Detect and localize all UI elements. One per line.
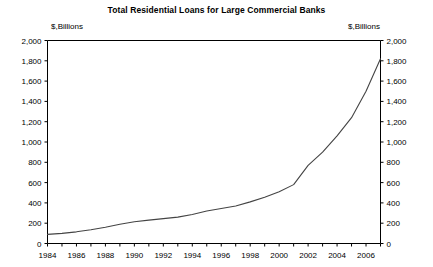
y-tick-label-right: 1,400 — [387, 97, 408, 106]
y-tick-label-left: 2,000 — [21, 37, 42, 46]
y-tick-label-right: 600 — [387, 179, 401, 188]
y-tick-label-right: 1,600 — [387, 77, 408, 86]
y-tick-label-right: 800 — [387, 158, 401, 167]
y-tick-label-left: 1,800 — [21, 57, 42, 66]
x-tick-label: 1984 — [39, 251, 57, 260]
y-tick-label-left: 1,400 — [21, 97, 42, 106]
y-tick-label-right: 1,200 — [387, 118, 408, 127]
y-tick-label-left: 200 — [28, 219, 42, 228]
plot-area: 002002004004006006008008001,0001,0001,20… — [0, 0, 433, 267]
y-tick-label-left: 0 — [37, 240, 42, 249]
y-tick-label-right: 1,800 — [387, 57, 408, 66]
x-tick-label: 1994 — [183, 251, 201, 260]
y-tick-label-right: 2,000 — [387, 37, 408, 46]
y-tick-label-right: 1,000 — [387, 138, 408, 147]
y-tick-label-right: 0 — [387, 240, 392, 249]
x-tick-label: 1986 — [68, 251, 86, 260]
y-tick-label-left: 1,600 — [21, 77, 42, 86]
chart-container: Total Residential Loans for Large Commer… — [0, 0, 433, 267]
data-series-line — [48, 59, 381, 235]
y-tick-label-left: 600 — [28, 179, 42, 188]
y-tick-label-right: 400 — [387, 199, 401, 208]
x-tick-label: 1998 — [241, 251, 259, 260]
x-tick-label: 2004 — [328, 251, 346, 260]
y-tick-label-left: 1,200 — [21, 118, 42, 127]
y-tick-label-left: 1,000 — [21, 138, 42, 147]
y-tick-label-left: 400 — [28, 199, 42, 208]
plot-frame — [48, 41, 381, 244]
y-tick-label-left: 800 — [28, 158, 42, 167]
x-tick-label: 1992 — [154, 251, 172, 260]
x-tick-label: 1990 — [125, 251, 143, 260]
y-tick-label-right: 200 — [387, 219, 401, 228]
x-tick-label: 2002 — [299, 251, 317, 260]
x-tick-label: 2006 — [357, 251, 375, 260]
x-tick-label: 1996 — [212, 251, 230, 260]
x-tick-label: 1988 — [97, 251, 115, 260]
x-tick-label: 2000 — [270, 251, 288, 260]
